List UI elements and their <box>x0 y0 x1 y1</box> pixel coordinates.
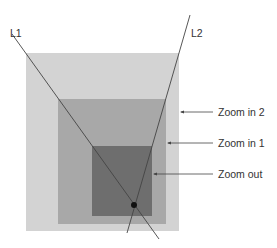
zoom-diagram: L1 L2 Zoom in 2 Zoom in 1 Zoom out <box>0 0 277 248</box>
label-l2: L2 <box>191 27 203 39</box>
callout-zoom-in-2: Zoom in 2 <box>180 106 265 118</box>
callout-zoom-in-1: Zoom in 1 <box>167 137 265 149</box>
callout-label-zoom-out: Zoom out <box>218 168 262 180</box>
region-zoom-out <box>92 146 152 216</box>
intersection-point <box>131 202 137 208</box>
callout-label-zoom-in-1: Zoom in 1 <box>218 137 265 149</box>
label-l1: L1 <box>10 27 22 39</box>
arrowhead-icon <box>180 111 184 114</box>
callout-label-zoom-in-2: Zoom in 2 <box>218 106 265 118</box>
